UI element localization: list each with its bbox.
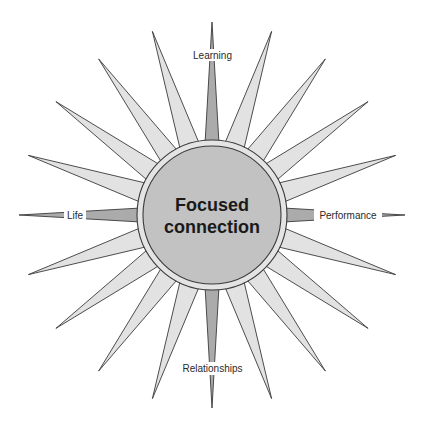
label-performance: Performance (319, 210, 377, 221)
focused-connection-diagram: Focused connection Learning Performance … (0, 0, 423, 424)
center-circle (143, 146, 281, 284)
center-title-line-2: connection (164, 217, 260, 237)
label-life: Life (67, 210, 84, 221)
ray-top (205, 22, 219, 144)
center-title-line-1: Focused (175, 195, 249, 215)
ray-bottom (205, 286, 219, 408)
label-relationships: Relationships (182, 363, 242, 374)
label-learning: Learning (193, 50, 232, 61)
